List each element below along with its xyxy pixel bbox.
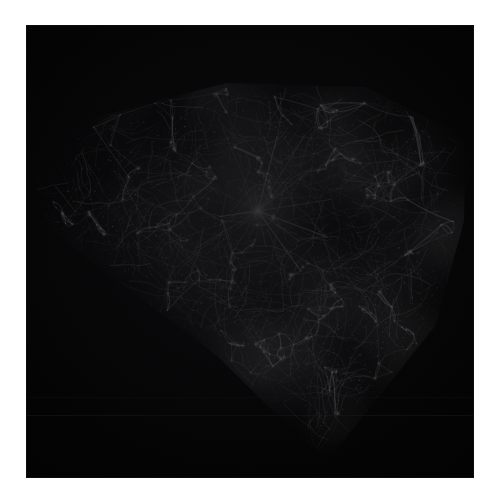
cosmic-web-volume <box>26 25 474 478</box>
figure-viewport: Cosmic web dark matter simulation cube <box>0 0 497 503</box>
cube-body-haze <box>51 40 474 448</box>
cosmic-web-svg <box>26 25 474 478</box>
figure-alt-text: Cosmic web dark matter simulation cube <box>0 0 1 1</box>
simulation-render-panel <box>26 25 474 478</box>
